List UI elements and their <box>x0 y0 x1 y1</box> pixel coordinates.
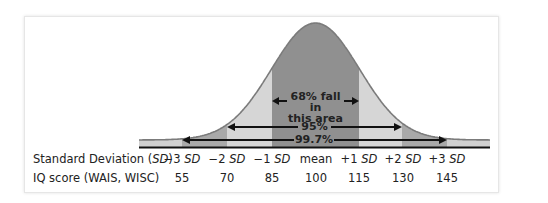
iq-value: 130 <box>392 171 414 185</box>
annotation-68-line1: 68% fall in <box>287 91 344 113</box>
sd-tick: −3 SD <box>164 152 201 166</box>
annotation-95: 95% <box>298 121 331 132</box>
iq-value: 85 <box>265 171 280 185</box>
iq-value: 115 <box>348 171 370 185</box>
band-left-tail <box>139 0 182 147</box>
sd-row-label: Standard Deviation (SD) <box>33 152 173 166</box>
sd-tick: −1 SD <box>254 152 291 166</box>
iq-row-label: IQ score (WAIS, WISC) <box>33 171 159 185</box>
sd-tick-mean: mean <box>300 152 333 166</box>
band-plus-3sd <box>402 0 447 147</box>
band-minus-3sd <box>182 0 227 147</box>
sd-tick: +2 SD <box>385 152 422 166</box>
iq-value: 70 <box>220 171 235 185</box>
band-right-tail <box>447 0 490 147</box>
sd-tick: −2 SD <box>209 152 246 166</box>
iq-value: 55 <box>175 171 190 185</box>
iq-value: 100 <box>305 171 327 185</box>
sd-tick: +1 SD <box>341 152 378 166</box>
iq-value: 145 <box>436 171 458 185</box>
sd-label-prefix: Standard Deviation ( <box>33 152 152 166</box>
annotation-99-7: 99.7% <box>294 134 334 145</box>
sd-tick: +3 SD <box>429 152 466 166</box>
